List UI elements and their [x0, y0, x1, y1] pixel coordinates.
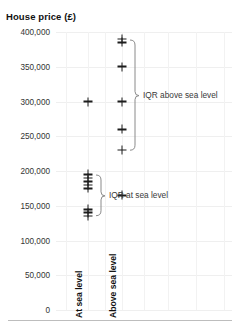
y-axis-tick-label: 200,000 — [0, 167, 50, 176]
gridline-vertical — [105, 32, 106, 310]
gridline-vertical — [168, 32, 169, 310]
data-point-marker — [118, 125, 127, 134]
plot-area: 400,000350,000300,000250,000200,000150,0… — [56, 32, 232, 310]
data-point-marker — [84, 97, 93, 106]
y-axis-tick-label: 300,000 — [0, 97, 50, 106]
gridline-vertical — [196, 32, 197, 310]
data-point-marker — [118, 146, 127, 155]
iqr-brace-iqr-above — [129, 39, 141, 152]
bottom-divider — [8, 320, 232, 321]
data-point-marker — [118, 97, 127, 106]
data-point-marker — [84, 212, 93, 221]
data-point-marker — [84, 184, 93, 193]
gridline-vertical — [144, 32, 145, 310]
x-axis-category-label: Above sea level — [108, 254, 118, 319]
gridline-vertical — [224, 32, 225, 310]
data-point-marker — [118, 62, 127, 71]
gridline-vertical — [66, 32, 67, 310]
y-axis-tick-label: 50,000 — [0, 271, 50, 280]
page-title: House price (£) — [6, 11, 76, 22]
x-axis-category-label: At sea level — [74, 271, 84, 318]
y-axis-tick-label: 400,000 — [0, 28, 50, 37]
gridline-vertical — [122, 32, 123, 310]
iqr-label-iqr-above: IQR above sea level — [143, 90, 218, 100]
y-axis-tick-label: 0 — [0, 306, 50, 315]
y-axis-tick-label: 350,000 — [0, 62, 50, 71]
y-axis-tick-label: 250,000 — [0, 132, 50, 141]
iqr-label-iqr-at: IQR at sea level — [109, 190, 168, 200]
y-axis-tick-label: 150,000 — [0, 201, 50, 210]
house-price-strip-chart: House price (£) 400,000350,000300,000250… — [0, 0, 240, 328]
data-point-marker — [118, 38, 127, 47]
y-axis-tick-label: 100,000 — [0, 236, 50, 245]
iqr-brace-iqr-at — [95, 174, 107, 218]
